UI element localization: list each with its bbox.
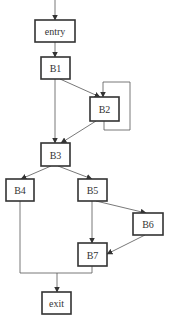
node-label: B6 [142,219,154,230]
edge-b3-b5 [58,166,92,179]
control-flow-graph: entry B1 B2 B3 B4 B5 B6 B7 exit [0,0,171,327]
node-label: entry [45,26,66,37]
node-exit: exit [42,292,71,314]
node-b3: B3 [41,143,70,166]
edge-b7-exit [57,266,92,273]
node-label: B3 [50,150,62,161]
node-b7: B7 [78,243,107,266]
edge-b3-b4 [21,166,51,179]
node-label: B1 [50,63,62,74]
edge-b2-b3 [61,121,96,143]
edge-b5-b6 [96,201,146,213]
node-b4: B4 [6,179,34,201]
edge-b4-exit [20,201,57,273]
node-b6: B6 [133,213,163,235]
node-entry: entry [35,20,75,42]
node-label: B4 [14,185,26,196]
node-label: B5 [87,185,99,196]
edge-b1-b2 [60,79,100,97]
node-b5: B5 [78,179,107,201]
node-label: B7 [87,250,99,261]
node-label: B2 [99,104,111,115]
node-b2: B2 [90,97,119,121]
edge-b6-b7 [107,235,145,254]
node-label: exit [49,298,64,309]
node-b1: B1 [41,57,70,79]
